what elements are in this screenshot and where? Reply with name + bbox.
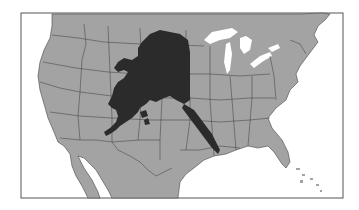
map [0,0,359,210]
